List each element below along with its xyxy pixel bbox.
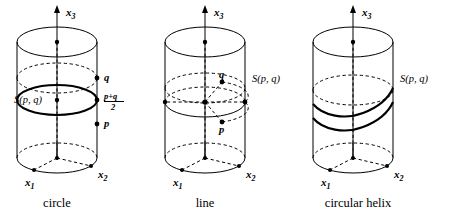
dot-top-center [351, 40, 355, 44]
label-midpoint-fraction: p+q 2 [103, 91, 124, 112]
label-point-p: p [218, 124, 224, 135]
label-x3: x3 [65, 6, 76, 21]
dot-top-center [55, 40, 59, 44]
label-curve-S: S(p, q) [14, 94, 42, 106]
label-x2: x2 [393, 168, 404, 183]
dot-center-mid [202, 99, 207, 104]
geodesics-on-cylinder-figure: x3 x1 x2 S(p, q) q p p+q 2 circle [0, 0, 455, 220]
panel-circle: x3 x1 x2 S(p, q) q p p+q 2 circle [14, 5, 124, 210]
panel-line: x3 x1 x2 q p S(p, q) line [163, 5, 281, 210]
label-x2: x2 [245, 168, 256, 183]
caption-line: line [196, 196, 215, 210]
svg-text:p+q: p+q [103, 91, 118, 101]
svg-text:2: 2 [110, 102, 116, 112]
dot-q [95, 76, 100, 81]
dot-left-mid [163, 100, 167, 104]
panel-helix: x3 x1 x2 S(p, q) circular helix [313, 5, 428, 210]
label-point-q: q [219, 69, 224, 80]
dot-p [95, 122, 100, 127]
dot-midpoint [95, 98, 100, 103]
label-x3: x3 [361, 6, 372, 21]
label-point-p: p [103, 118, 109, 129]
label-point-q: q [104, 72, 109, 83]
label-x1: x1 [24, 176, 35, 191]
label-x1: x1 [172, 176, 183, 191]
dot-center-mid [55, 98, 59, 102]
label-curve-S: S(p, q) [400, 73, 428, 85]
cylinder-bottom-ellipse-front [165, 158, 245, 173]
diagram-canvas: x3 x1 x2 S(p, q) q p p+q 2 circle [0, 0, 455, 220]
label-x3: x3 [213, 6, 224, 21]
label-x2: x2 [97, 168, 108, 183]
dot-right-mid [243, 100, 248, 105]
cylinder-bottom-ellipse-front [313, 158, 393, 173]
label-curve-S: S(p, q) [252, 73, 280, 85]
caption-helix: circular helix [325, 196, 392, 210]
cylinder-bottom-ellipse-front [17, 158, 97, 173]
dot-top-center [203, 40, 207, 44]
caption-circle: circle [43, 196, 71, 210]
label-x1: x1 [320, 176, 331, 191]
dot-q [220, 80, 225, 85]
